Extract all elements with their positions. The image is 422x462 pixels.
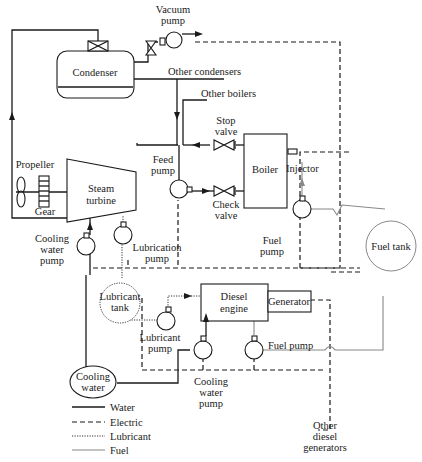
svg-text:Fuel: Fuel: [263, 235, 282, 246]
svg-text:Generator: Generator: [268, 296, 310, 307]
condenser[interactable]: Condenser: [57, 51, 134, 98]
svg-text:Lubricant: Lubricant: [140, 332, 181, 343]
svg-text:pump: pump: [161, 15, 185, 26]
legend-item-electric: Electric: [72, 417, 143, 428]
svg-text:Check: Check: [213, 199, 241, 210]
condenser-valve-icon[interactable]: [88, 41, 108, 51]
svg-text:diesel: diesel: [313, 431, 338, 442]
other-diesel-generators-label: Other diesel generators: [303, 420, 347, 453]
svg-text:Gear: Gear: [35, 206, 56, 217]
svg-text:Water: Water: [110, 402, 135, 413]
svg-text:Feed: Feed: [153, 154, 174, 165]
svg-text:pump: pump: [151, 165, 175, 176]
condenser-label: Condenser: [73, 67, 118, 78]
legend-item-lubricant: Lubricant: [72, 431, 151, 442]
svg-text:Cooling: Cooling: [76, 371, 111, 382]
svg-text:pump: pump: [260, 246, 284, 257]
svg-text:tank: tank: [111, 302, 130, 313]
svg-text:Diesel: Diesel: [221, 291, 248, 302]
svg-text:Electric: Electric: [110, 417, 143, 428]
svg-text:Stop: Stop: [216, 115, 235, 126]
svg-text:engine: engine: [220, 303, 248, 314]
svg-text:Lubricant: Lubricant: [110, 431, 151, 442]
svg-text:valve: valve: [215, 126, 238, 137]
svg-text:Other: Other: [313, 420, 337, 431]
svg-text:Fuel pump: Fuel pump: [268, 340, 313, 351]
svg-text:Fuel: Fuel: [110, 445, 129, 456]
diesel-engine[interactable]: Diesel engine: [201, 284, 268, 321]
boiler[interactable]: Boiler: [244, 134, 287, 208]
feed-pump[interactable]: Feed pump: [151, 154, 192, 198]
svg-text:water: water: [40, 244, 64, 255]
generator[interactable]: Generator: [268, 291, 311, 312]
stop-valve[interactable]: Stop valve: [214, 115, 238, 150]
svg-text:Cooling: Cooling: [35, 233, 70, 244]
svg-text:pump: pump: [148, 343, 172, 354]
diesel-fuel-pump[interactable]: Fuel pump: [245, 336, 313, 359]
svg-text:Boiler: Boiler: [252, 164, 279, 175]
svg-text:Steam: Steam: [88, 183, 114, 194]
svg-text:Cooling: Cooling: [194, 376, 229, 387]
lubricant-pump[interactable]: Lubricant pump: [140, 307, 181, 354]
svg-text:generators: generators: [303, 442, 347, 453]
svg-text:Lubricant: Lubricant: [100, 291, 141, 302]
lubricant-tank[interactable]: Lubricant tank: [100, 283, 141, 323]
svg-text:Vacuum: Vacuum: [156, 4, 190, 15]
svg-text:turbine: turbine: [86, 195, 116, 206]
svg-text:pump: pump: [145, 253, 169, 264]
steam-turbine[interactable]: Steam turbine: [67, 159, 136, 222]
svg-text:valve: valve: [215, 210, 238, 221]
cooling-water-tank[interactable]: Cooling water: [70, 366, 116, 398]
svg-text:pump: pump: [199, 398, 223, 409]
svg-text:water: water: [81, 382, 105, 393]
svg-text:Propeller: Propeller: [16, 159, 55, 170]
svg-text:Fuel tank: Fuel tank: [371, 241, 411, 252]
diesel-cooling-water-pump[interactable]: Cooling water pump: [194, 313, 229, 409]
svg-text:water: water: [199, 387, 223, 398]
marine-power-plant-diagram: Condenser Vacuum pump Other condensers O…: [0, 0, 422, 462]
fuel-tank[interactable]: Fuel tank: [366, 221, 416, 271]
svg-text:Lubrication: Lubrication: [133, 242, 183, 253]
legend-item-water: Water: [72, 402, 135, 413]
legend-item-fuel: Fuel: [72, 445, 129, 456]
lubrication-pump[interactable]: Lubrication pump: [114, 222, 182, 264]
svg-text:pump: pump: [40, 255, 64, 266]
other-boilers-label: Other boilers: [201, 88, 256, 99]
other-condensers-label: Other condensers: [168, 66, 241, 77]
svg-text:Injector: Injector: [286, 163, 319, 174]
injector[interactable]: Injector: [286, 149, 319, 174]
legend: Water Electric Lubricant Fuel: [72, 402, 151, 456]
electric-lines: [93, 42, 360, 430]
gear: Gear: [35, 176, 56, 217]
cooling-water-pump[interactable]: Cooling water pump: [35, 233, 95, 266]
